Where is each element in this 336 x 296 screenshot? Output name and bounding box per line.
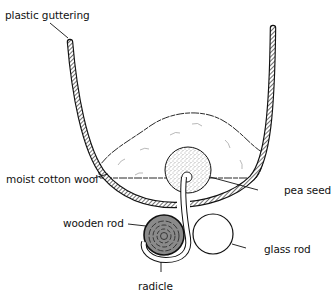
label-pea-seed: pea seed	[284, 184, 331, 196]
glass-rod	[193, 214, 233, 254]
pea-seed	[165, 147, 211, 193]
label-glass-rod: glass rod	[264, 243, 311, 255]
wooden-rod	[144, 215, 184, 255]
label-wooden-rod: wooden rod	[63, 217, 124, 229]
label-radicle: radicle	[138, 280, 173, 292]
label-moist-cotton-wool: moist cotton wool	[6, 173, 98, 185]
label-plastic-guttering: plastic guttering	[5, 9, 90, 21]
